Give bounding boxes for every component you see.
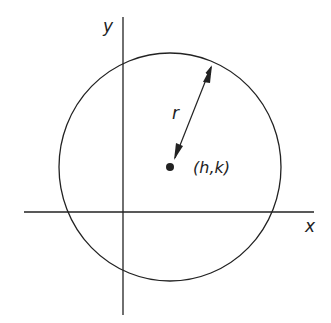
circle-diagram: y x r (h,k) — [0, 0, 331, 323]
arrowhead-bottom-icon — [174, 143, 183, 160]
x-axis-label: x — [304, 216, 316, 236]
center-label: (h,k) — [193, 158, 230, 177]
radius-label: r — [172, 103, 180, 123]
center-point — [166, 163, 174, 171]
y-axis-label: y — [102, 16, 114, 36]
arrowhead-top-icon — [203, 65, 212, 83]
